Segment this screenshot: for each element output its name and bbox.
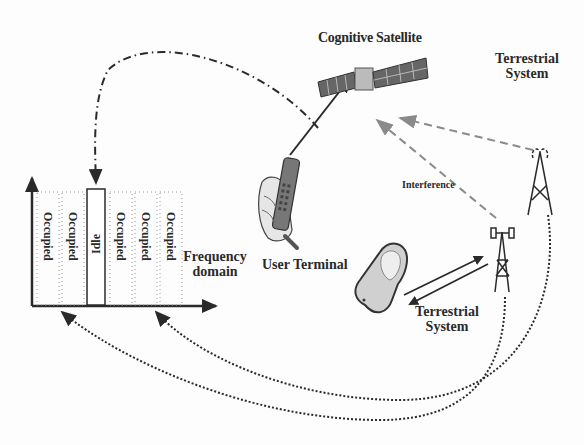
radio-mast-icon <box>528 149 552 215</box>
band-label-occupied-2: Occupied <box>65 212 80 261</box>
spectrum-bands <box>37 192 182 305</box>
handheld-terminal-icon <box>259 157 301 248</box>
band-label-occupied-1: Occupied <box>40 212 55 261</box>
band-label-idle: Idle <box>89 234 104 254</box>
user-terminal-label: User Terminal <box>262 258 348 273</box>
band-label-occupied-4: Occupied <box>138 212 153 261</box>
terrestrial-system-bottom-label: Terrestrial System <box>412 305 482 334</box>
cell-tower-icon <box>491 228 514 292</box>
interference-arrows <box>377 118 533 218</box>
terrestrial-link-arrows <box>404 257 488 304</box>
terrestrial-system-top-label: Terrestrial System <box>492 52 562 81</box>
satellite-icon <box>318 58 428 97</box>
band-label-occupied-3: Occupied <box>113 212 128 261</box>
satellite-label: Cognitive Satellite <box>318 31 422 46</box>
mobile-phone-icon <box>355 244 407 313</box>
cognitive-satellite-diagram: Occupied Occupied Idle Occupied Occupied… <box>0 0 584 445</box>
frequency-domain-label: Frequency domain <box>183 250 247 279</box>
band-label-occupied-5: Occupied <box>163 212 178 261</box>
interference-label: Interference <box>402 180 455 191</box>
